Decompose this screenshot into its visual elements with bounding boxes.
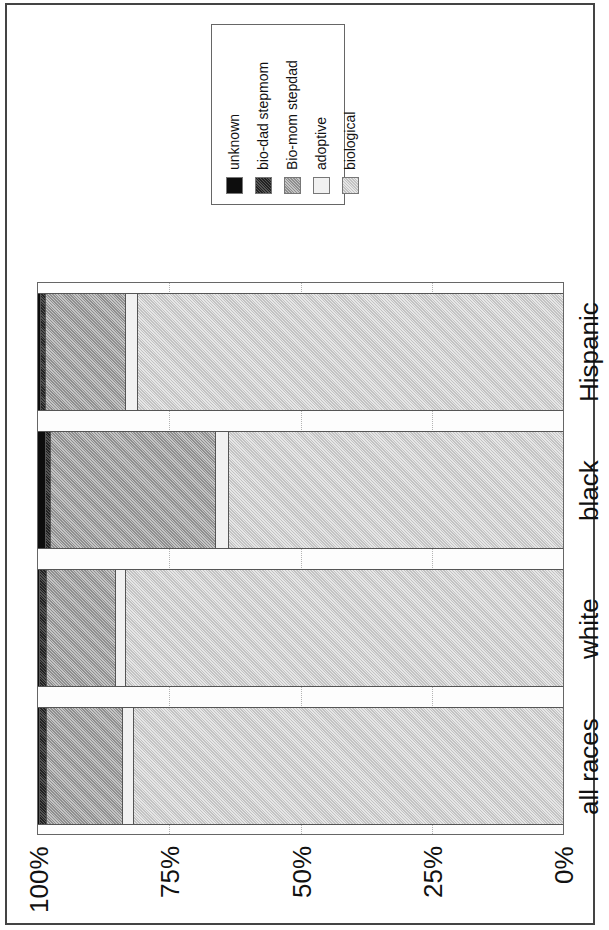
category-label: white <box>574 598 605 659</box>
segment-adoptive <box>216 432 229 548</box>
legend-label: adoptive <box>313 117 329 170</box>
segment-adoptive <box>126 294 138 410</box>
bar-white <box>38 569 563 687</box>
category-label: Hispanic <box>574 302 605 402</box>
segment-biological <box>126 570 563 686</box>
legend-item-unknown: unknown <box>224 24 246 194</box>
tick-label: 25% <box>418 846 449 898</box>
legend-label: Bio-mom stepdad <box>284 60 300 170</box>
segment-biomom <box>51 432 216 548</box>
segment-biomom <box>47 708 123 824</box>
legend: unknownbio-dad stepmomBio-mom stepdadado… <box>211 24 345 205</box>
segment-biomom <box>47 570 116 686</box>
legend-item-biological: biological <box>340 24 362 194</box>
legend-label: bio-dad stepmom <box>255 62 271 170</box>
bar-all-races <box>38 707 563 825</box>
legend-swatch <box>226 177 243 194</box>
tick-label: 0% <box>549 846 580 884</box>
legend-item-adoptive: adoptive <box>311 24 333 194</box>
legend-item-biodad: bio-dad stepmom <box>253 24 275 194</box>
legend-swatch <box>342 177 359 194</box>
segment-biological <box>138 294 563 410</box>
bar-black <box>38 431 563 549</box>
segment-biodad <box>40 570 47 686</box>
legend-label: biological <box>342 112 358 170</box>
segment-biomom <box>46 294 126 410</box>
legend-swatch <box>284 177 301 194</box>
legend-item-biomom: Bio-mom stepdad <box>282 24 304 194</box>
segment-biological <box>229 432 563 548</box>
category-label: all races <box>574 718 605 815</box>
plot-area <box>37 282 564 835</box>
segment-biological <box>134 708 563 824</box>
category-label: black <box>574 460 605 521</box>
legend-label: unknown <box>226 114 242 170</box>
tick-label: 100% <box>24 847 55 914</box>
segment-biodad <box>40 708 47 824</box>
segment-adoptive <box>116 570 126 686</box>
segment-adoptive <box>123 708 134 824</box>
legend-swatch <box>313 177 330 194</box>
tick-label: 50% <box>287 846 318 898</box>
bar-hispanic <box>38 293 563 411</box>
tick-label: 75% <box>155 846 186 898</box>
legend-swatch <box>255 177 272 194</box>
segment-unknown <box>38 432 46 548</box>
